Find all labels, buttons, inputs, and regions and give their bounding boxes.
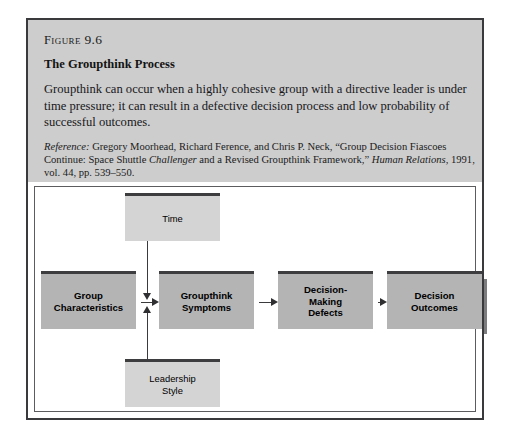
diagram-edge-symptoms-to-defects-arrowhead: [271, 298, 278, 306]
reference-italic-challenger: Challenger: [149, 154, 197, 165]
reference-italic-journal: Human Relations: [372, 154, 446, 165]
figure-title: The Groupthink Process: [44, 57, 468, 72]
diagram-node-label: GroupthinkSymptoms: [178, 290, 236, 313]
diagram-canvas: TimeGroupCharacteristicsLeadershipStyleG…: [34, 186, 476, 412]
diagram-node-leadership: LeadershipStyle: [125, 359, 220, 407]
figure-label-prefix: Figure: [44, 33, 81, 47]
figure-body-text: Groupthink can occur when a highly cohes…: [44, 81, 472, 131]
figure-label-number: 9.6: [84, 32, 102, 47]
diagram-panel: TimeGroupCharacteristicsLeadershipStyleG…: [28, 182, 482, 418]
diagram-edge-group-chars-to-symptoms-arrowhead: [152, 298, 159, 306]
diagram-edge-time-to-symptoms: [147, 241, 148, 296]
diagram-edge-leadership-to-symptoms-arrowhead: [143, 306, 151, 313]
diagram-node-label: Decision-MakingDefects: [301, 284, 350, 319]
diagram-node-label: GroupCharacteristics: [51, 290, 126, 313]
diagram-node-label: Time: [159, 213, 185, 225]
figure-frame: Figure 9.6 The Groupthink Process Groupt…: [26, 18, 484, 420]
diagram-node-group-chars: GroupCharacteristics: [41, 271, 136, 329]
figure-label: Figure 9.6: [44, 32, 468, 48]
reference-part-2: and a Revised Groupthink Framework,”: [197, 154, 372, 165]
diagram-edge-leadership-to-symptoms: [147, 310, 148, 359]
diagram-edge-time-to-symptoms-arrowhead: [143, 293, 151, 300]
diagram-node-defects: Decision-MakingDefects: [278, 271, 373, 329]
figure-header: Figure 9.6 The Groupthink Process Groupt…: [28, 20, 482, 182]
diagram-node-label: DecisionOutcomes: [408, 290, 461, 313]
figure-reference: Reference: Gregory Moorhead, Richard Fer…: [44, 140, 476, 180]
diagram-node-label: LeadershipStyle: [146, 373, 198, 396]
diagram-node-time: Time: [125, 193, 220, 241]
diagram-node-symptoms: GroupthinkSymptoms: [159, 271, 254, 329]
diagram-edge-defects-to-outcomes-arrowhead: [380, 298, 387, 306]
reference-lead: Reference:: [44, 141, 89, 152]
diagram-node-outcomes: DecisionOutcomes: [387, 271, 482, 329]
